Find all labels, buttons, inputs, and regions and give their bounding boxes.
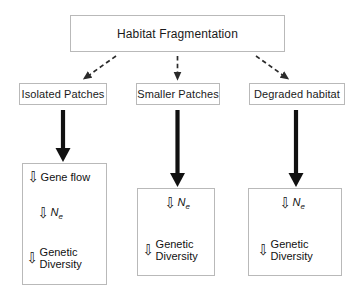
effect-label-genetic-diversity: Genetic Diversity (156, 239, 198, 262)
thick-arrow-center (170, 110, 185, 187)
node-degraded-effects: ⇩ Ne ⇩ Genetic Diversity (248, 188, 342, 276)
effect-label-ne: Ne (293, 196, 305, 211)
ne-subscript: e (186, 202, 190, 211)
effect-step-gene-flow: ⇩ Gene flow (27, 170, 90, 185)
node-label-habitat-fragmentation: Habitat Fragmentation (71, 16, 284, 51)
down-hollow-arrow-icon: ⇩ (165, 196, 176, 211)
thick-arrow-right (289, 110, 304, 187)
effect-chain-isolated: ⇩ Gene flow ⇩ Ne ⇩ Genetic Diversity (23, 164, 106, 284)
effect-step-genetic-diversity: ⇩ Genetic Diversity (142, 239, 198, 262)
ne-subscript: e (301, 202, 305, 211)
effect-label-line-2: Diversity (156, 251, 198, 263)
down-hollow-arrow-icon: ⇩ (143, 243, 154, 258)
effect-label-genetic-diversity: Genetic Diversity (271, 239, 313, 262)
diagram-canvas: Habitat Fragmentation Isolated Patches S… (0, 0, 357, 292)
effect-chain-degraded: ⇩ Ne ⇩ Genetic Diversity (249, 189, 341, 275)
ne-base: N (178, 196, 186, 208)
effect-label-line-1: Genetic (271, 239, 313, 251)
down-hollow-arrow-icon: ⇩ (27, 251, 38, 266)
node-isolated-patches: Isolated Patches (19, 83, 107, 105)
node-label-degraded-habitat: Degraded habitat (250, 84, 344, 104)
thick-arrow-left (56, 110, 71, 162)
dashed-arrow-left (85, 56, 116, 78)
down-hollow-arrow-icon: ⇩ (258, 243, 269, 258)
node-smaller-effects: ⇩ Ne ⇩ Genetic Diversity (137, 188, 215, 276)
effect-step-genetic-diversity: ⇩ Genetic Diversity (257, 239, 313, 262)
effect-label-gene-flow: Gene flow (41, 172, 91, 184)
effect-chain-smaller: ⇩ Ne ⇩ Genetic Diversity (138, 189, 214, 275)
effect-label-line-2: Diversity (40, 259, 82, 271)
effect-step-ne: ⇩ Ne (37, 206, 63, 221)
down-hollow-arrow-icon: ⇩ (280, 196, 291, 211)
effect-label-genetic-diversity: Genetic Diversity (40, 247, 82, 270)
effect-label-line-1: Genetic (40, 247, 82, 259)
effect-label-line-1: Genetic (156, 239, 198, 251)
ne-base: N (293, 196, 301, 208)
node-isolated-effects: ⇩ Gene flow ⇩ Ne ⇩ Genetic Diversity (22, 163, 107, 285)
down-hollow-arrow-icon: ⇩ (28, 170, 39, 185)
node-label-isolated-patches: Isolated Patches (20, 84, 106, 104)
effect-step-ne: ⇩ Ne (164, 196, 190, 211)
node-smaller-patches: Smaller Patches (136, 83, 220, 105)
node-habitat-fragmentation: Habitat Fragmentation (70, 15, 285, 52)
node-degraded-habitat: Degraded habitat (249, 83, 345, 105)
effect-label-ne: Ne (178, 196, 190, 211)
ne-base: N (51, 206, 59, 218)
effect-label-line-2: Diversity (271, 251, 313, 263)
effect-label-ne: Ne (51, 206, 63, 221)
node-label-smaller-patches: Smaller Patches (137, 84, 219, 104)
effect-step-ne: ⇩ Ne (279, 196, 305, 211)
ne-subscript: e (59, 212, 63, 221)
effect-step-genetic-diversity: ⇩ Genetic Diversity (26, 247, 82, 270)
down-hollow-arrow-icon: ⇩ (38, 206, 49, 221)
dashed-arrow-right (256, 56, 287, 78)
